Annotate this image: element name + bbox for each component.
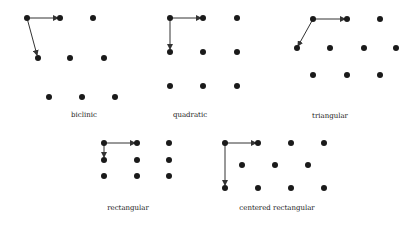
lattice-rectangular: rectangular — [101, 140, 172, 212]
lattice-point — [393, 45, 399, 51]
lattice-point — [134, 157, 140, 163]
lattice-point — [222, 140, 228, 146]
lattice-point — [79, 94, 85, 100]
lattice-point — [101, 173, 107, 179]
basis-vector-arrow — [298, 19, 313, 46]
lattice-point — [35, 55, 41, 61]
lattice-point — [166, 173, 172, 179]
lattice-point — [255, 140, 261, 146]
lattice-point — [344, 72, 350, 78]
lattice-point — [134, 140, 140, 146]
lattice-point — [239, 162, 245, 168]
lattice-point — [134, 173, 140, 179]
lattice-label: quadratic — [173, 111, 207, 119]
lattice-canvas: biclinic quadratic triangular rectangula… — [0, 0, 420, 226]
lattice-point — [321, 140, 327, 146]
lattice-point — [167, 49, 173, 55]
lattice-point — [294, 45, 300, 51]
lattice-point — [112, 94, 118, 100]
lattice-point — [344, 16, 350, 22]
lattice-point — [101, 140, 107, 146]
lattice-point — [200, 49, 206, 55]
lattice-point — [166, 140, 172, 146]
lattice-diagram: biclinic quadratic triangular rectangula… — [0, 0, 420, 226]
lattice-point — [200, 15, 206, 21]
lattice-point — [272, 162, 278, 168]
lattice-point — [305, 162, 311, 168]
lattice-point — [24, 15, 30, 21]
lattice-centered-rectangular: centered rectangular — [222, 140, 327, 212]
lattice-point — [234, 83, 240, 89]
lattice-point — [167, 83, 173, 89]
lattice-point — [101, 55, 107, 61]
lattice-point — [361, 45, 367, 51]
lattice-point — [222, 185, 228, 191]
lattice-label: triangular — [312, 112, 348, 120]
basis-vector-arrow — [27, 18, 37, 55]
lattice-point — [101, 157, 107, 163]
lattice-label: biclinic — [71, 111, 97, 119]
lattice-point — [288, 140, 294, 146]
lattice-point — [200, 83, 206, 89]
lattice-point — [321, 185, 327, 191]
lattice-point — [57, 15, 63, 21]
lattice-point — [46, 94, 52, 100]
lattice-point — [234, 49, 240, 55]
lattice-triangular: triangular — [294, 16, 399, 120]
lattice-biclinic: biclinic — [24, 15, 118, 119]
lattice-point — [327, 45, 333, 51]
lattice-point — [288, 185, 294, 191]
lattice-label: rectangular — [107, 204, 149, 212]
lattice-point — [234, 15, 240, 21]
lattice-point — [377, 72, 383, 78]
lattice-label: centered rectangular — [239, 204, 315, 212]
lattice-point — [310, 16, 316, 22]
lattice-point — [67, 55, 73, 61]
lattice-point — [166, 157, 172, 163]
lattice-point — [310, 72, 316, 78]
lattice-point — [255, 185, 261, 191]
lattice-quadratic: quadratic — [167, 15, 240, 119]
lattice-point — [167, 15, 173, 21]
lattice-point — [90, 15, 96, 21]
lattice-point — [377, 16, 383, 22]
